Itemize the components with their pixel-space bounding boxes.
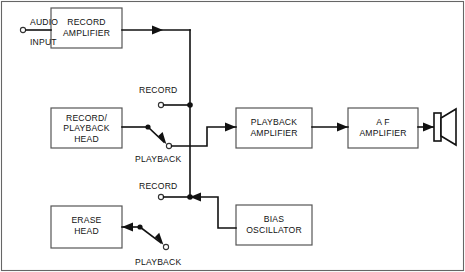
block-record-playback-head-label-3: HEAD: [74, 134, 99, 144]
label-record-lower: RECORD: [139, 181, 177, 191]
arrowhead-bias-to-record: [190, 193, 201, 202]
block-bias-oscillator-label-2: OSCILLATOR: [246, 225, 302, 235]
label-playback-lower: PLAYBACK: [135, 257, 181, 267]
label-audio: AUDIO: [30, 17, 58, 27]
block-af-amplifier-label-2: AMPLIFIER: [359, 128, 406, 138]
arrowhead-record-amp-output: [152, 26, 163, 35]
label-input: INPUT: [30, 37, 57, 47]
block-playback-amplifier-label-2: AMPLIFIER: [250, 128, 297, 138]
block-record-playback-head-label-1: RECORD/: [66, 113, 107, 123]
block-record-amplifier-label-2: AMPLIFIER: [63, 28, 110, 38]
block-diagram: RECORD AMPLIFIER RECORD/ PLAYBACK HEAD E…: [0, 0, 465, 272]
block-playback-amplifier-label-1: PLAYBACK: [251, 117, 297, 127]
block-record-playback-head-label-2: PLAYBACK: [63, 123, 109, 133]
arrowhead-playback-amp-input: [225, 123, 236, 132]
diagram-page: RECORD AMPLIFIER RECORD/ PLAYBACK HEAD E…: [0, 0, 465, 272]
speaker-icon-magnet: [434, 113, 441, 141]
block-record-amplifier-label-1: RECORD: [67, 17, 105, 27]
wire-bias-oscillator-output: [190, 197, 236, 228]
lower-playback-contact-terminal: [163, 244, 168, 249]
input-terminal-icon: [20, 27, 25, 32]
block-erase-head-label-2: HEAD: [74, 226, 99, 236]
block-bias-oscillator-label-1: BIAS: [264, 214, 284, 224]
arrowhead-erase-head-input: [122, 223, 133, 232]
speaker-icon-cone: [441, 109, 456, 145]
block-erase-head-label-1: ERASE: [71, 215, 101, 225]
label-record-upper: RECORD: [139, 85, 177, 95]
arrowhead-speaker-input: [423, 123, 434, 132]
arrowhead-af-amp-input: [337, 123, 348, 132]
junction-dot-record-upper: [187, 102, 193, 108]
label-playback-upper: PLAYBACK: [135, 154, 181, 164]
block-af-amplifier-label-1: A F: [376, 117, 390, 127]
